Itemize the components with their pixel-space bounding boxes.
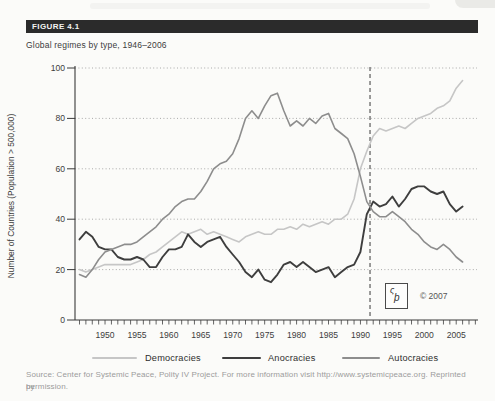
y-tick-label-0: 0 xyxy=(60,315,65,325)
copyright-text: © 2007 xyxy=(420,291,448,301)
y-tick-label-20: 20 xyxy=(55,265,65,275)
csp-logo: ς þ xyxy=(385,283,408,309)
regimes-chart: 0204060801001950195519601965197019751980… xyxy=(0,0,495,401)
x-tick-label-1970: 1970 xyxy=(223,330,242,340)
series-line-autocracies xyxy=(80,93,463,277)
legend-line-anocracies xyxy=(222,357,261,359)
y-tick-label-40: 40 xyxy=(55,214,65,224)
x-tick-label-1960: 1960 xyxy=(159,330,178,340)
y-tick-label-100: 100 xyxy=(51,63,66,73)
legend-line-autocracies xyxy=(342,357,380,359)
x-tick-label-2000: 2000 xyxy=(415,330,434,340)
x-tick-label-1975: 1975 xyxy=(255,330,274,340)
x-tick-label-2005: 2005 xyxy=(447,330,466,340)
legend-label-autocracies: Autocracies xyxy=(388,353,438,363)
y-tick-label-60: 60 xyxy=(55,164,65,174)
legend-line-democracies xyxy=(92,357,137,359)
x-tick-label-1955: 1955 xyxy=(127,330,146,340)
x-tick-label-1965: 1965 xyxy=(191,330,210,340)
x-tick-label-1985: 1985 xyxy=(319,330,338,340)
x-tick-label-1950: 1950 xyxy=(95,330,114,340)
series-line-democracies xyxy=(80,81,463,273)
legend-label-democracies: Democracies xyxy=(145,353,201,363)
x-tick-label-1990: 1990 xyxy=(351,330,370,340)
csp-logo-glyph-bottom: þ xyxy=(394,292,400,303)
source-note-line2: permission. xyxy=(26,381,476,393)
legend-label-anocracies: Anocracies xyxy=(268,353,315,363)
x-tick-label-1995: 1995 xyxy=(383,330,402,340)
x-tick-label-1980: 1980 xyxy=(287,330,306,340)
y-axis-title: Number of Countries (Population > 500,00… xyxy=(6,114,16,279)
y-tick-label-80: 80 xyxy=(55,113,65,123)
